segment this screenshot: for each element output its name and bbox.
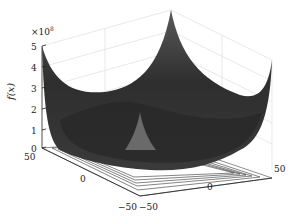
z-axis-label: f(x) xyxy=(5,83,16,101)
x-tick-50: 50 xyxy=(274,164,286,174)
x-tick-m50: −50 xyxy=(139,202,158,212)
z-tick-3: 3 xyxy=(31,84,37,94)
surface-plot: 5 4 3 2 1 0 ×108 f(x) 50 0 −50 −50 0 50 xyxy=(0,0,293,220)
z-exponent: ×108 xyxy=(31,25,54,37)
surface xyxy=(42,10,272,170)
z-tick-1: 1 xyxy=(31,126,37,136)
x-tick-0: 0 xyxy=(207,182,213,192)
z-tick-4: 4 xyxy=(31,63,37,73)
z-tick-2: 2 xyxy=(31,105,37,115)
y-tick-0: 0 xyxy=(80,174,86,184)
y-tick-m50: −50 xyxy=(118,202,137,212)
y-tick-50: 50 xyxy=(24,152,36,162)
z-tick-5: 5 xyxy=(31,42,37,52)
